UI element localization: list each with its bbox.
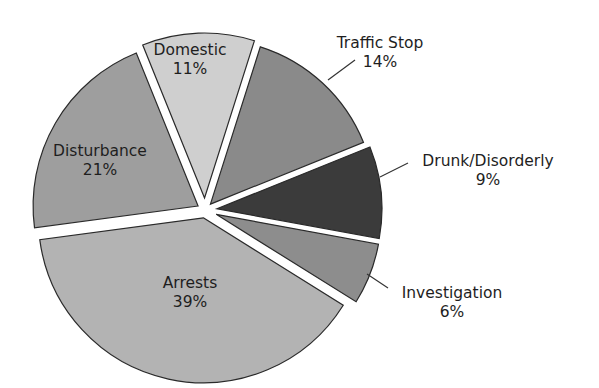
pie-slices xyxy=(33,33,382,383)
slice-label: Domestic xyxy=(153,41,226,59)
leader-line xyxy=(367,274,388,288)
slice-percent: 14% xyxy=(363,53,397,71)
slice-label: Traffic Stop xyxy=(336,34,424,52)
slice-label: Investigation xyxy=(402,284,503,302)
slice-percent: 11% xyxy=(173,60,207,78)
leader-line xyxy=(380,163,408,177)
slice-percent: 9% xyxy=(476,171,501,189)
pie-chart: Domestic11%Traffic Stop14%Drunk/Disorder… xyxy=(0,0,599,388)
slice-label: Disturbance xyxy=(53,142,147,160)
slice-percent: 39% xyxy=(173,293,207,311)
slice-percent: 6% xyxy=(440,303,465,321)
leader-line xyxy=(328,60,355,80)
slice-label: Drunk/Disorderly xyxy=(422,152,553,170)
slice-percent: 21% xyxy=(83,161,117,179)
slice-label: Arrests xyxy=(163,274,218,292)
